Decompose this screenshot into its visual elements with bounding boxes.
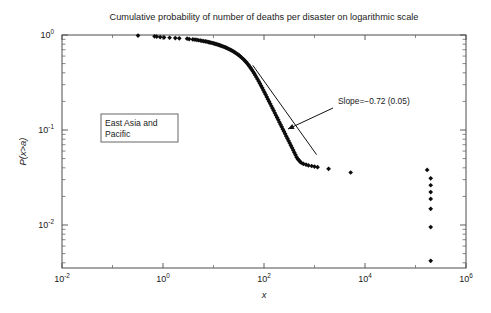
x-axis: 10-2100102104106 — [54, 35, 473, 284]
data-point — [315, 165, 320, 170]
y-tick-label: 100 — [40, 28, 54, 40]
chart-title-text: Cumulative probability of number of deat… — [110, 12, 419, 22]
data-point — [428, 225, 433, 230]
data-point — [173, 36, 178, 41]
y-tick-label: 10-2 — [38, 218, 54, 230]
data-point — [428, 176, 433, 181]
data-point — [428, 206, 433, 211]
data-point — [167, 35, 172, 40]
x-tick-label: 100 — [156, 272, 170, 284]
region-label-box: East Asia andPacific — [101, 114, 178, 142]
data-point — [428, 183, 433, 188]
slope-annotation-text: Slope=−0.72 (0.05) — [338, 96, 410, 106]
slope-annotation: Slope=−0.72 (0.05) — [288, 96, 410, 129]
chart-figure: Cumulative probability of number of deat… — [0, 0, 491, 313]
x-tick-label: 106 — [459, 272, 473, 284]
data-point — [136, 33, 141, 38]
power-law-fit-line — [253, 65, 317, 154]
region-label-line: Pacific — [105, 129, 131, 139]
y-axis-label: P(x>a) — [17, 138, 28, 166]
x-tick-label: 102 — [257, 272, 271, 284]
plot-frame — [62, 35, 466, 268]
x-tick-label: 10-2 — [54, 272, 70, 284]
x-tick-label: 104 — [358, 272, 372, 284]
data-point — [428, 197, 433, 202]
data-point — [428, 190, 433, 195]
data-series-east-asia-pacific — [136, 33, 433, 263]
data-point — [177, 36, 182, 41]
data-point — [425, 168, 430, 173]
data-point — [348, 170, 353, 175]
y-tick-label: 10-1 — [38, 123, 54, 135]
data-point — [326, 166, 331, 171]
y-axis: 10010-110-2 — [38, 28, 466, 263]
scatter-plot-svg: Cumulative probability of number of deat… — [0, 0, 491, 313]
data-point — [162, 35, 167, 40]
region-label-line: East Asia and — [105, 118, 158, 128]
slope-annotation-arrow — [288, 108, 333, 129]
data-point — [428, 258, 433, 263]
chart-title: Cumulative probability of number of deat… — [110, 12, 419, 22]
x-axis-label: x — [261, 289, 267, 300]
y-axis-label-text: P(x>a) — [17, 138, 28, 166]
